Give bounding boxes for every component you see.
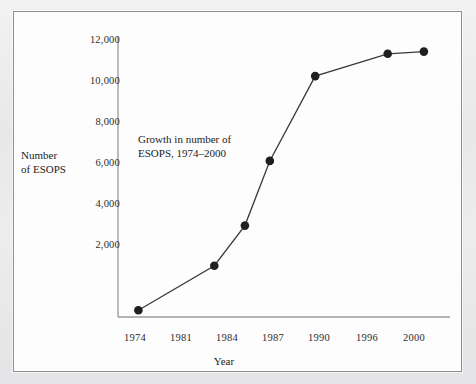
data-point-marker <box>266 157 275 166</box>
data-point-marker <box>311 72 320 81</box>
plot-area: 2,000 4,000 6,000 8,000 10,000 12,000 19… <box>14 12 461 371</box>
figure-frame: 2,000 4,000 6,000 8,000 10,000 12,000 19… <box>13 11 462 372</box>
data-point-marker <box>134 306 143 315</box>
xtick-label: 1996 <box>356 332 378 343</box>
xtick-label: 1974 <box>124 332 146 343</box>
xtick-label: 2000 <box>403 332 425 343</box>
data-point-markers <box>134 47 428 314</box>
ytick-label: 10,000 <box>67 75 120 86</box>
ytick-label: 8,000 <box>70 116 120 127</box>
y-axis-title-line-1: Number <box>21 149 93 163</box>
x-axis-title: Year <box>189 355 259 367</box>
chart-annotation: Growth in number of ESOPS, 1974–2000 <box>138 132 231 160</box>
data-point-marker <box>420 47 429 56</box>
ytick-label: 4,000 <box>70 198 120 209</box>
ytick-label: 12,000 <box>67 34 120 45</box>
xtick-label: 1981 <box>170 332 192 343</box>
ytick-label: 2,000 <box>70 239 120 250</box>
data-series-line <box>138 52 424 311</box>
data-point-marker <box>210 261 219 270</box>
y-axis-title: Number of ESOPS <box>21 149 93 176</box>
xtick-label: 1987 <box>262 332 284 343</box>
y-axis-title-line-2: of ESOPS <box>21 163 93 177</box>
xtick-label: 1984 <box>216 332 238 343</box>
data-point-marker <box>383 50 392 59</box>
xtick-label: 1990 <box>308 332 330 343</box>
line-chart-canvas <box>14 12 463 373</box>
data-point-marker <box>241 221 250 230</box>
